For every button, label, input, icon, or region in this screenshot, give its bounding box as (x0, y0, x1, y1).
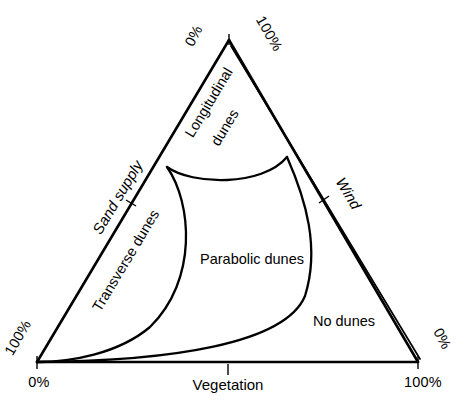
ternary-diagram-root: 0% 100% 100% 0% 0% 100% Sand supply Wind… (0, 0, 470, 412)
axis-label-vegetation: Vegetation (193, 376, 264, 393)
region-label-parabolic: Parabolic dunes (200, 251, 304, 267)
region-labels: Longitudinal dunes Transverse dunes Para… (89, 65, 375, 329)
triangle-left-edge (37, 40, 229, 362)
region-label-no-dunes: No dunes (313, 313, 375, 329)
bottom-left-lower-percent: 0% (28, 374, 49, 390)
bottom-right-upper-percent: 0% (430, 325, 454, 351)
bottom-left-upper-percent: 100% (1, 317, 34, 358)
apex-right-percent: 100% (253, 13, 286, 54)
region-label-longitudinal-line2: dunes (208, 106, 242, 148)
boundary-longitudinal-lower (167, 157, 287, 180)
axis-label-wind: Wind (333, 174, 365, 212)
bottom-right-lower-percent: 100% (404, 374, 442, 390)
ternary-diagram-canvas: 0% 100% 100% 0% 0% 100% Sand supply Wind… (0, 0, 470, 412)
apex-left-percent: 0% (182, 22, 206, 48)
